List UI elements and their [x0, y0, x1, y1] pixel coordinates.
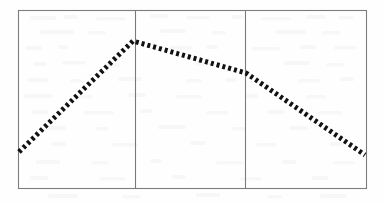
plot-area: [0, 0, 383, 204]
data-series-line: [19, 41, 365, 155]
scanned-line-chart-figure: [0, 0, 383, 204]
